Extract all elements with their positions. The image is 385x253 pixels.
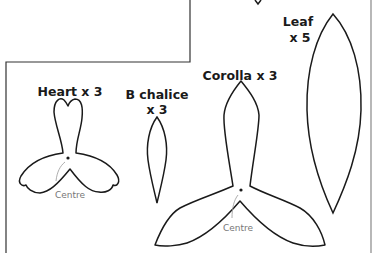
corolla-shape	[155, 81, 325, 246]
b-chalice-count: x 3	[146, 104, 167, 117]
leaf-label: Leaf	[283, 16, 313, 29]
corolla-centre-label: Centre	[223, 224, 253, 233]
heart-shape	[20, 99, 119, 193]
corolla-centre-dot	[239, 188, 242, 191]
b-chalice-label: B chalice	[125, 89, 188, 102]
heart-label: Heart x 3	[38, 86, 103, 99]
heart-centre-leader	[56, 162, 65, 181]
pattern-diagram: Heart x 3 Centre B chalice x 3 Corolla x…	[0, 0, 385, 253]
heart-centre-dot	[66, 156, 69, 159]
leaf-count: x 5	[289, 32, 310, 45]
leaf-shape	[307, 14, 361, 213]
cut-fragment	[255, 0, 261, 4]
heart-centre-label: Centre	[55, 191, 85, 200]
corolla-label: Corolla x 3	[203, 70, 278, 83]
b-chalice-shape	[147, 117, 166, 203]
